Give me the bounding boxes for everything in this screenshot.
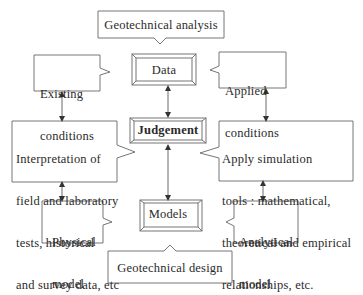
analytical-model-label: Analytical model xyxy=(239,207,293,295)
apply-line-2: tools : mathematical, xyxy=(222,194,351,208)
models-label: Models xyxy=(140,207,196,221)
physical-line-2: model xyxy=(52,277,96,291)
interp-line-1: Interpretation of xyxy=(16,152,119,166)
applied-line-1: Applied xyxy=(225,84,279,98)
interp-line-2: field and laboratory xyxy=(16,194,119,208)
geotechnical-design-label: Geotechnical design xyxy=(108,261,232,275)
judgement-label: Judgement xyxy=(130,123,206,137)
center-frames xyxy=(130,54,206,231)
analytical-line-1: Analytical xyxy=(239,235,293,249)
physical-model-label: Physical model xyxy=(52,207,96,295)
geotechnical-analysis-label: Geotechnical analysis xyxy=(98,18,224,32)
existing-line-1: Existing xyxy=(40,87,94,101)
geotechnical-diagram: Geotechnical analysis Existing condition… xyxy=(0,0,363,295)
apply-line-1: Apply simulation xyxy=(222,152,351,166)
analytical-line-2: model xyxy=(239,277,293,291)
physical-line-1: Physical xyxy=(52,235,96,249)
data-label: Data xyxy=(132,63,196,77)
